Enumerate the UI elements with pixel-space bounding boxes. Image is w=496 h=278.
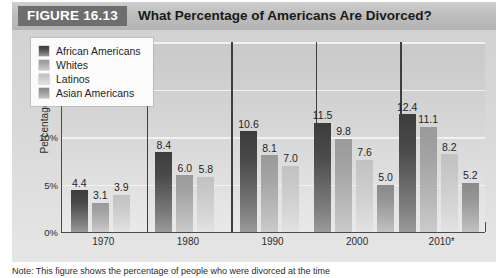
bar-value-label: 8.2 (442, 142, 457, 153)
bar: 8.2 (441, 154, 458, 232)
legend-item: Asian Americans (39, 86, 141, 100)
bar: 4.4 (71, 190, 88, 232)
bar: 5.8 (197, 177, 214, 232)
bar: 3.1 (92, 203, 109, 232)
bar: 7.6 (356, 160, 373, 232)
x-axis-tick-label: 1970 (92, 236, 114, 247)
legend-item: Latinos (39, 72, 141, 86)
x-axis-tick-labels: 19701980199020002010* (61, 236, 484, 252)
bar-value-label: 7.0 (283, 153, 298, 164)
bar-value-label: 8.1 (262, 143, 277, 154)
bar-value-label: 6.0 (178, 163, 193, 174)
bar: 3.9 (113, 195, 130, 232)
x-axis-right-cap (485, 222, 487, 232)
bar-value-label: 5.0 (378, 172, 393, 183)
bar-value-label: 12.4 (397, 102, 417, 113)
legend-swatch-icon (39, 46, 49, 56)
legend-swatch-icon (39, 74, 49, 84)
chart-legend: African AmericansWhitesLatinosAsian Amer… (31, 38, 153, 106)
x-axis-tick-label: 1980 (177, 236, 199, 247)
bar-value-label: 5.2 (463, 170, 478, 181)
bar: 5.0 (377, 185, 394, 233)
bar: 11.1 (420, 127, 437, 232)
bar-value-label: 3.1 (93, 190, 108, 201)
x-axis-tick-label: 2010* (429, 236, 455, 247)
bar-value-label: 5.8 (199, 164, 214, 175)
bar: 10.6 (240, 131, 257, 232)
bar: 9.8 (335, 139, 352, 232)
y-axis-tick-label: 0% (44, 227, 58, 238)
group-separator (231, 42, 233, 232)
y-axis-tick-label: 5% (44, 179, 58, 190)
legend-item-label: Asian Americans (56, 88, 134, 99)
bar-value-label: 8.4 (157, 140, 172, 151)
bar-value-label: 3.9 (114, 182, 129, 193)
bar: 5.2 (462, 183, 479, 232)
bar: 8.4 (155, 152, 172, 232)
figure-header-band: FIGURE 16.13 What Percentage of American… (12, 2, 496, 30)
x-axis-tick-label: 1990 (261, 236, 283, 247)
figure-container: FIGURE 16.13 What Percentage of American… (0, 0, 496, 278)
figure-number-tag: FIGURE 16.13 (18, 6, 127, 27)
bar-value-label: 10.6 (238, 119, 258, 130)
bar-value-label: 7.6 (357, 147, 372, 158)
legend-item-label: Latinos (56, 74, 90, 85)
legend-swatch-icon (39, 60, 49, 70)
bar-value-label: 11.1 (418, 114, 438, 125)
bar: 7.0 (282, 166, 299, 233)
bar-value-label: 9.8 (336, 126, 351, 137)
figure-title: What Percentage of Americans Are Divorce… (138, 9, 432, 23)
bar: 12.4 (399, 114, 416, 232)
bar-value-label: 11.5 (313, 110, 333, 121)
legend-swatch-icon (39, 88, 49, 98)
y-axis-tick-label: 10% (39, 132, 58, 143)
chart-frame: Percentage 0%5%10%15%20% 4.43.13.98.46.0… (12, 30, 496, 262)
legend-item: African Americans (39, 44, 141, 58)
legend-item-label: Whites (56, 60, 88, 71)
bar: 11.5 (314, 123, 331, 232)
figure-footnote: Note: This figure shows the percentage o… (12, 266, 496, 278)
x-axis-tick-label: 2000 (346, 236, 368, 247)
legend-item-label: African Americans (56, 46, 141, 57)
bar: 8.1 (261, 155, 278, 232)
bar-value-label: 4.4 (72, 178, 87, 189)
bar: 6.0 (176, 175, 193, 232)
legend-item: Whites (39, 58, 141, 72)
